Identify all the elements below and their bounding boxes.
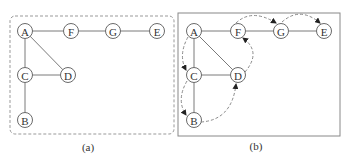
traverse-arrow-f-g: [236, 16, 276, 24]
edge-a-d: [194, 31, 238, 75]
node-b: B: [18, 113, 33, 128]
svg-text:F: F: [235, 26, 241, 38]
node-e: E: [317, 24, 332, 39]
node-a: A: [18, 24, 33, 39]
node-g: G: [106, 24, 121, 39]
svg-text:D: D: [234, 70, 242, 82]
node-f: F: [64, 24, 79, 39]
edge-a-d: [25, 31, 68, 75]
node-d: D: [61, 68, 76, 83]
node-b: B: [187, 113, 202, 128]
svg-text:C: C: [21, 70, 28, 82]
traverse-arrow-a-c: [182, 37, 188, 70]
traverse-arrow-c-b: [181, 81, 187, 115]
node-d: D: [231, 68, 246, 83]
graph-figure: A F G E C D B (a) A F G E C D B (b): [0, 0, 350, 162]
node-a: A: [187, 24, 202, 39]
caption-b: (b): [250, 140, 263, 153]
traverse-arrow-b-d: [201, 84, 236, 122]
traverse-arrow-g-e: [282, 14, 320, 23]
node-g: G: [274, 24, 289, 39]
svg-text:E: E: [154, 26, 161, 38]
svg-text:G: G: [277, 26, 285, 38]
svg-text:D: D: [64, 70, 72, 82]
svg-text:G: G: [109, 26, 117, 38]
svg-text:A: A: [190, 26, 198, 38]
svg-text:B: B: [190, 115, 197, 127]
svg-text:E: E: [321, 26, 328, 38]
svg-text:C: C: [190, 70, 197, 82]
svg-text:B: B: [21, 115, 28, 127]
svg-text:A: A: [21, 26, 29, 38]
panel-b: A F G E C D B (b): [178, 13, 340, 153]
caption-a: (a): [82, 141, 95, 154]
node-f: F: [231, 24, 246, 39]
node-c: C: [187, 68, 202, 83]
node-c: C: [18, 68, 33, 83]
traverse-arrow-d-f: [243, 38, 253, 72]
svg-text:F: F: [68, 26, 74, 38]
node-e: E: [150, 24, 165, 39]
panel-a: A F G E C D B (a): [10, 16, 174, 154]
